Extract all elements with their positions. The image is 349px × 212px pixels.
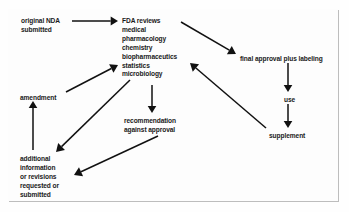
node-line: statistics: [122, 62, 177, 71]
node-line: original NDA: [21, 17, 60, 26]
node-line: requested or: [20, 182, 59, 191]
node-line: pharmacology: [122, 35, 177, 44]
node-line: microbiology: [122, 70, 177, 79]
node-line: supplement: [269, 132, 305, 141]
node-line: submitted: [20, 191, 59, 200]
node-line: final approval plus labeling: [240, 55, 323, 64]
node-line: additional: [20, 155, 59, 164]
node-line: use: [284, 96, 295, 105]
node-line: or revisions: [20, 173, 59, 182]
node-additional-information-or-revisions: additionalinformationor revisionsrequest…: [20, 155, 59, 200]
node-original-nda-submitted: original NDAsubmitted: [21, 17, 60, 35]
node-line: information: [20, 164, 59, 173]
node-line: recommendation: [124, 117, 176, 126]
node-line: chemistry: [122, 44, 177, 53]
diagram-canvas: original NDAsubmittedFDA reviewsmedicalp…: [0, 0, 349, 212]
node-fda-reviews: FDA reviewsmedicalpharmacologychemistryb…: [122, 17, 177, 79]
node-line: biopharmaceutics: [122, 53, 177, 62]
node-line: amendment: [20, 94, 56, 103]
node-supplement: supplement: [269, 132, 305, 141]
node-line: medical: [122, 26, 177, 35]
node-amendment: amendment: [20, 94, 56, 103]
node-line: FDA reviews: [122, 17, 177, 26]
node-recommendation-against-approval: recommendationagainst approval: [124, 117, 176, 135]
node-line: submitted: [21, 26, 60, 35]
node-final-approval-plus-labeling: final approval plus labeling: [240, 55, 323, 64]
node-use: use: [284, 96, 295, 105]
node-line: against approval: [124, 126, 176, 135]
